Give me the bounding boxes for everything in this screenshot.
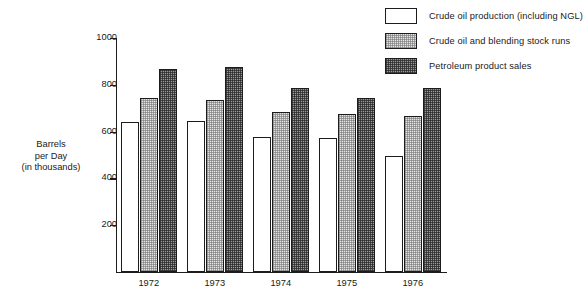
bar xyxy=(338,114,356,272)
bar xyxy=(272,112,290,272)
bar xyxy=(357,98,375,272)
x-axis-label: 1972 xyxy=(115,278,183,288)
bar xyxy=(225,67,243,272)
x-axis-label: 1976 xyxy=(379,278,447,288)
x-axis-label: 1975 xyxy=(313,278,381,288)
bar xyxy=(187,121,205,272)
y-axis-title-line-3: (in thousands) xyxy=(8,162,94,174)
x-axis-label: 1973 xyxy=(181,278,249,288)
bar xyxy=(159,69,177,272)
bar xyxy=(404,116,422,272)
bar xyxy=(206,100,224,272)
y-axis-line xyxy=(116,38,117,272)
bar xyxy=(291,88,309,272)
bar xyxy=(423,88,441,272)
y-tick-mark xyxy=(110,85,117,86)
y-tick-mark xyxy=(110,178,117,179)
bar xyxy=(385,156,403,272)
bar xyxy=(253,137,271,272)
y-axis-title-line-2: per Day xyxy=(8,151,94,163)
y-axis-title-line-1: Barrels xyxy=(8,139,94,151)
x-axis-label: 1974 xyxy=(247,278,315,288)
bar xyxy=(121,122,139,272)
x-axis-line xyxy=(116,272,447,273)
y-axis-title: Barrels per Day (in thousands) xyxy=(8,139,94,174)
y-tick-mark xyxy=(110,38,117,39)
y-tick-mark xyxy=(110,225,117,226)
y-tick-mark xyxy=(110,132,117,133)
bar xyxy=(140,98,158,272)
bar xyxy=(319,138,337,272)
